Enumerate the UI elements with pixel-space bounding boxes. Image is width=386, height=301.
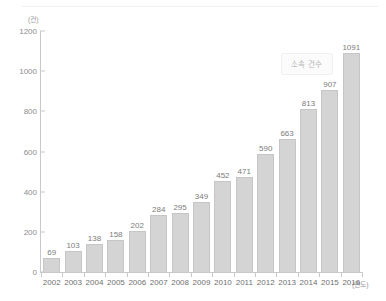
bar[interactable] (129, 231, 146, 272)
x-tick-mark (362, 272, 363, 277)
bar-value-label: 103 (66, 241, 79, 250)
x-tick-label: 2012 (257, 278, 275, 287)
x-tick-label: 2007 (150, 278, 168, 287)
bar-group[interactable]: 202 (129, 31, 146, 272)
x-tick-mark (148, 272, 149, 277)
bar-value-label: 202 (131, 221, 144, 230)
x-tick-label: 2002 (43, 278, 61, 287)
x-axis-line (40, 272, 362, 273)
x-tick-label: 2006 (128, 278, 146, 287)
bar-value-label: 1091 (342, 43, 360, 52)
bar-value-label: 284 (152, 205, 165, 214)
bar[interactable] (65, 251, 82, 272)
y-tick-label: 400 (24, 187, 37, 196)
x-tick-mark (276, 272, 277, 277)
bar[interactable] (279, 139, 296, 272)
bar-value-label: 138 (88, 234, 101, 243)
x-tick-mark (234, 272, 235, 277)
bar-group[interactable]: 349 (193, 31, 210, 272)
y-tick-label: 200 (24, 227, 37, 236)
bar[interactable] (236, 177, 253, 272)
x-tick-mark (341, 272, 342, 277)
x-tick-label: 2010 (214, 278, 232, 287)
x-tick-mark (62, 272, 63, 277)
x-tick-label: 2016 (342, 278, 360, 287)
bar-value-label: 590 (259, 144, 272, 153)
bar[interactable] (300, 109, 317, 272)
bar[interactable] (172, 213, 189, 272)
bar-value-label: 69 (47, 248, 56, 257)
x-tick-label: 2003 (64, 278, 82, 287)
bar[interactable] (321, 90, 338, 272)
x-tick-mark (255, 272, 256, 277)
bar[interactable] (214, 181, 231, 272)
x-tick-mark (84, 272, 85, 277)
x-tick-mark (191, 272, 192, 277)
bar-group[interactable]: 1091 (343, 31, 360, 272)
bar-value-label: 907 (323, 80, 336, 89)
bar-chart-figure: (건) (연도) 020040060080010001200 691031381… (0, 0, 386, 301)
x-tick-mark (298, 272, 299, 277)
bar-group[interactable]: 295 (172, 31, 189, 272)
x-tick-mark (169, 272, 170, 277)
bar[interactable] (257, 154, 274, 272)
bar-group[interactable]: 103 (65, 31, 82, 272)
bar[interactable] (86, 244, 103, 272)
bar-value-label: 452 (216, 171, 229, 180)
bar[interactable] (343, 53, 360, 272)
x-tick-mark (127, 272, 128, 277)
bar-value-label: 349 (195, 192, 208, 201)
x-tick-label: 2015 (321, 278, 339, 287)
bar-value-label: 158 (109, 230, 122, 239)
legend-series-label: 소속 건수 (281, 53, 333, 75)
x-tick-label: 2004 (86, 278, 104, 287)
bar-value-label: 295 (173, 203, 186, 212)
y-tick-label: 1000 (19, 67, 37, 76)
y-tick-label: 800 (24, 107, 37, 116)
y-tick-label: 1200 (19, 27, 37, 36)
y-tick-label: 600 (24, 147, 37, 156)
bar-value-label: 663 (280, 129, 293, 138)
x-tick-label: 2008 (171, 278, 189, 287)
x-tick-label: 2011 (236, 278, 253, 287)
x-tick-mark (105, 272, 106, 277)
x-tick-label: 2005 (107, 278, 125, 287)
y-axis-unit-label: (건) (28, 14, 39, 24)
bar-group[interactable]: 158 (107, 31, 124, 272)
x-tick-label: 2013 (278, 278, 296, 287)
x-tick-mark (41, 272, 42, 277)
x-tick-label: 2014 (300, 278, 318, 287)
x-tick-mark (319, 272, 320, 277)
bar-group[interactable]: 452 (214, 31, 231, 272)
bar-value-label: 471 (238, 167, 251, 176)
x-tick-mark (212, 272, 213, 277)
bar-group[interactable]: 471 (236, 31, 253, 272)
top-divider (22, 6, 378, 7)
bar-group[interactable]: 69 (43, 31, 60, 272)
bar-value-label: 813 (302, 99, 315, 108)
y-tick-label: 0 (33, 268, 37, 277)
bar[interactable] (43, 258, 60, 272)
x-tick-label: 2009 (193, 278, 211, 287)
bar-group[interactable]: 284 (150, 31, 167, 272)
bar[interactable] (193, 202, 210, 272)
bar[interactable] (107, 240, 124, 272)
bar[interactable] (150, 215, 167, 272)
bar-group[interactable]: 138 (86, 31, 103, 272)
bar-group[interactable]: 590 (257, 31, 274, 272)
